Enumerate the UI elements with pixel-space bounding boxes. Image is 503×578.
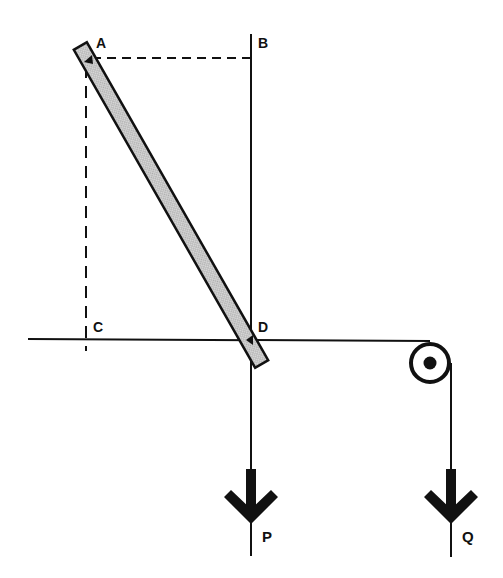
statics-diagram: A B C D P Q (0, 0, 503, 578)
pulley (411, 344, 449, 382)
horizontal-line-cd (28, 339, 430, 341)
label-b: B (258, 35, 268, 51)
label-a: A (96, 35, 106, 51)
force-arrow-q (424, 469, 478, 524)
label-p: P (262, 528, 272, 545)
label-q: Q (462, 528, 474, 545)
label-c: C (93, 319, 103, 335)
force-arrow-p (224, 469, 278, 524)
label-d: D (258, 319, 268, 335)
